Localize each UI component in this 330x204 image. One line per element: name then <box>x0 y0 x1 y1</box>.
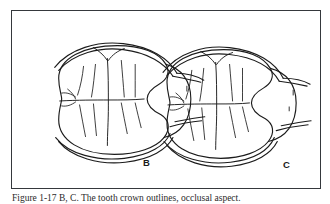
distal-groove-branch-b <box>108 49 124 61</box>
panel-label-b: B <box>143 158 150 168</box>
supp-groove-b5 <box>80 105 86 137</box>
central-groove-c <box>216 62 217 149</box>
supp-groove-b3 <box>121 60 124 97</box>
mesial-fossa-c <box>176 93 184 103</box>
supp-groove-c6 <box>202 108 205 140</box>
supp-groove-c7 <box>230 107 236 138</box>
figure-caption: Figure 1-17 B, C. The tooth crown outlin… <box>12 193 322 204</box>
mesial-marginal-lower-c <box>170 106 184 110</box>
panel-label-c: C <box>283 160 290 170</box>
supp-groove-b7 <box>121 103 127 134</box>
supp-groove-b1 <box>78 66 84 95</box>
figure-illustration <box>12 11 320 188</box>
supp-groove-b8 <box>135 103 141 128</box>
transverse-groove-c <box>168 103 249 105</box>
supp-groove-c5 <box>188 109 194 141</box>
transverse-groove-b <box>60 99 144 101</box>
tooth-diagram-c <box>163 47 311 167</box>
figure-root: B C Figure 1-17 B, C. The tooth crown ou… <box>0 0 330 204</box>
mesial-marginal-lower-b <box>62 102 76 106</box>
root-upper-edge-c <box>279 81 307 86</box>
supp-groove-c2 <box>200 68 204 101</box>
supp-groove-b6 <box>93 104 96 136</box>
supp-groove-b2 <box>91 64 95 97</box>
tooth-diagram-b <box>55 43 205 163</box>
central-groove-b <box>107 58 108 145</box>
supp-groove-c3 <box>230 64 233 101</box>
figure-frame: B C <box>11 10 321 189</box>
mesial-fossa-b <box>68 89 76 99</box>
supp-groove-c8 <box>243 107 249 132</box>
